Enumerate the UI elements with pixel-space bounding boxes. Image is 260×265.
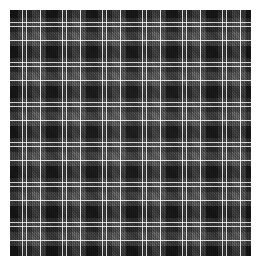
- tartan-fabric-swatch: [10, 10, 251, 256]
- swatch-canvas: [0, 0, 260, 265]
- thread-grain-texture: [10, 10, 251, 256]
